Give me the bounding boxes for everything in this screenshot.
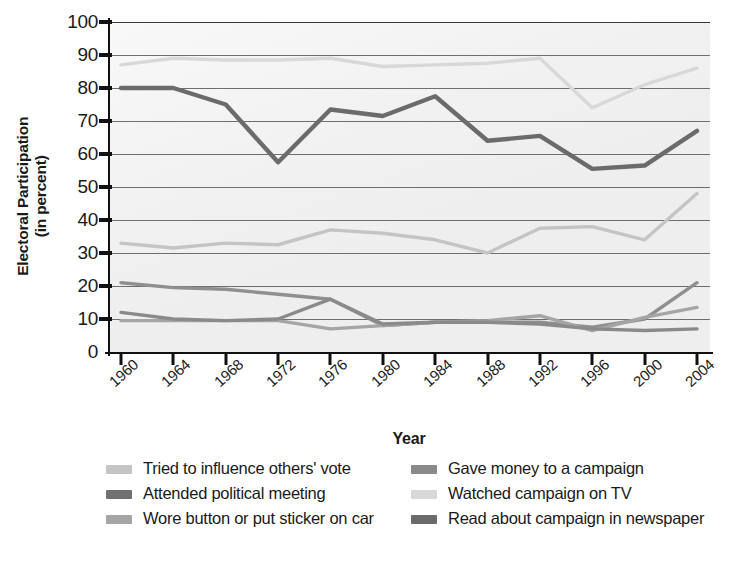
legend-item-label: Attended political meeting [143, 483, 325, 504]
y-tick-mark-100 [99, 20, 112, 23]
y-tick-mark-10 [99, 317, 112, 320]
y-tick-mark-30 [99, 251, 112, 254]
y-tick-label-100: 100 [67, 11, 98, 33]
x-tick-label-1960: 1960 [106, 356, 142, 390]
x-tick-label-1972: 1972 [263, 356, 299, 390]
y-tick-label-80: 80 [77, 77, 98, 99]
legend-item-label: Tried to influence others' vote [143, 458, 351, 479]
legend-column-right: Gave money to a campaignWatched campaign… [411, 458, 726, 533]
y-tick-label-30: 30 [77, 242, 98, 264]
y-tick-mark-40 [99, 218, 112, 221]
y-axis-title-line-1: Electoral Participation [14, 117, 32, 276]
line-chart: Electoral Participation (in percent) 010… [0, 0, 744, 574]
y-tick-label-50: 50 [77, 176, 98, 198]
x-tick-label-1976: 1976 [315, 356, 351, 390]
y-tick-mark-50 [99, 185, 112, 188]
y-tick-label-70: 70 [77, 110, 98, 132]
y-tick-mark-70 [99, 119, 112, 122]
x-tick-label-1988: 1988 [472, 356, 508, 390]
legend-column-left: Tried to influence others' voteAttended … [106, 458, 411, 533]
x-tick-label-1984: 1984 [420, 356, 456, 390]
x-tick-label-1964: 1964 [158, 356, 194, 390]
legend-swatch-icon [106, 465, 132, 474]
legend-item[interactable]: Watched campaign on TV [411, 483, 726, 506]
y-tick-mark-80 [99, 86, 112, 89]
y-tick-label-90: 90 [77, 44, 98, 66]
legend-item[interactable]: Gave money to a campaign [411, 458, 726, 481]
legend-item[interactable]: Attended political meeting [106, 483, 411, 506]
y-axis-title: Electoral Participation (in percent) [14, 46, 51, 346]
legend-item-label: Read about campaign in newspaper [448, 508, 704, 529]
y-tick-label-0: 0 [88, 341, 98, 363]
y-tick-label-60: 60 [77, 143, 98, 165]
y-tick-mark-90 [99, 53, 112, 56]
series-lines [108, 22, 710, 352]
x-axis-line [105, 352, 713, 354]
y-tick-mark-20 [99, 284, 112, 287]
series-line-0 [121, 194, 697, 253]
x-tick-label-1968: 1968 [210, 356, 246, 390]
x-tick-label-1996: 1996 [577, 356, 613, 390]
x-tick-label-2004: 2004 [682, 356, 718, 390]
legend-item[interactable]: Wore button or put sticker on car [106, 508, 411, 531]
plot-area [108, 22, 710, 352]
y-tick-label-10: 10 [77, 308, 98, 330]
x-axis-title: Year [108, 430, 710, 448]
y-axis-title-line-2: (in percent) [32, 155, 50, 237]
y-tick-label-20: 20 [77, 275, 98, 297]
x-tick-label-1980: 1980 [368, 356, 404, 390]
legend-item[interactable]: Read about campaign in newspaper [411, 508, 726, 531]
legend-item-label: Wore button or put sticker on car [143, 508, 374, 529]
x-tick-label-2000: 2000 [629, 356, 665, 390]
legend-swatch-icon [411, 465, 437, 474]
legend-item[interactable]: Tried to influence others' vote [106, 458, 411, 481]
legend-swatch-icon [106, 490, 132, 499]
y-tick-mark-60 [99, 152, 112, 155]
legend-swatch-icon [411, 490, 437, 499]
y-tick-label-40: 40 [77, 209, 98, 231]
chart-legend: Tried to influence others' voteAttended … [106, 458, 726, 533]
legend-swatch-icon [411, 515, 437, 524]
legend-item-label: Watched campaign on TV [448, 483, 631, 504]
x-tick-label-1992: 1992 [525, 356, 561, 390]
legend-swatch-icon [106, 515, 132, 524]
legend-item-label: Gave money to a campaign [448, 458, 644, 479]
